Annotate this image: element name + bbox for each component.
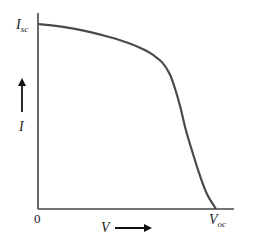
voc-label: Voc [209,212,226,229]
iv-characteristic-chart: Isc I 0 V Voc [0,0,253,247]
chart-canvas: Isc I 0 V Voc [0,0,253,247]
origin-label: 0 [34,211,41,226]
iv-curve-line [38,24,216,209]
isc-label: Isc [15,17,28,34]
voltage-axis-label: V [101,220,111,235]
current-axis-label: I [18,119,25,134]
